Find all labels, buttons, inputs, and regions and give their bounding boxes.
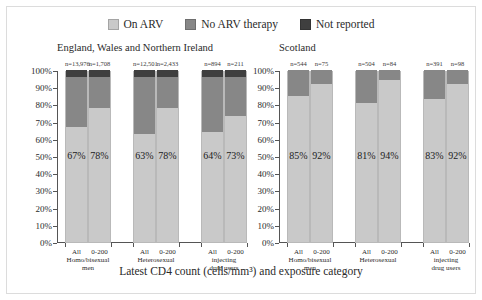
y-axis-tick <box>275 140 279 141</box>
x-axis-category-label: 0-200 <box>224 248 247 256</box>
legend-label: Not reported <box>316 19 374 30</box>
y-axis-tick <box>275 88 279 89</box>
x-axis-group-label: Heterosexual <box>133 256 179 264</box>
x-axis-category-label: 0-200 <box>310 248 333 256</box>
stacked-bar: 83% <box>423 71 446 243</box>
bar-sample-size-label: n=211 <box>224 60 247 67</box>
y-axis-tick <box>275 71 279 72</box>
x-axis-tick <box>179 243 180 247</box>
y-axis-tick-label: 70% <box>258 118 275 127</box>
x-axis-category-label: All <box>65 248 88 256</box>
y-axis-tick <box>275 191 279 192</box>
x-axis-tick <box>355 243 356 247</box>
bar-segment-no-arv <box>379 70 400 80</box>
panel-title-england: England, Wales and Northern Ireland <box>57 42 213 53</box>
bar-segment-on-arv <box>157 108 178 242</box>
y-axis-tick-label: 50% <box>36 153 53 162</box>
y-axis-line <box>279 71 280 243</box>
bar-segment-no-arv <box>134 77 155 134</box>
bar-value-label: 83% <box>424 151 445 161</box>
y-axis-tick-label: 50% <box>258 153 275 162</box>
y-axis-tick <box>53 191 57 192</box>
legend-item-not_reported: Not reported <box>300 19 374 30</box>
bar-segment-on-arv <box>202 132 223 242</box>
y-axis-tick <box>53 209 57 210</box>
bar-segment-not-reported <box>89 70 110 77</box>
y-axis-tick-label: 0% <box>262 239 274 248</box>
bar-segment-on-arv <box>225 116 246 242</box>
stacked-bar: 67% <box>65 71 88 243</box>
bar-segment-no-arv <box>89 77 110 108</box>
y-axis-tick-label: 10% <box>258 221 275 230</box>
stacked-bar: 63% <box>133 71 156 243</box>
stacked-bar: 92% <box>446 71 469 243</box>
bar-segment-on-arv <box>288 96 309 242</box>
legend-swatch-not_reported-icon <box>300 19 311 30</box>
bar-column: n=21173%0-200 <box>224 71 247 243</box>
stacked-bar: 94% <box>378 71 401 243</box>
y-axis-tick-label: 60% <box>36 135 53 144</box>
bar-sample-size-label: n=391 <box>423 60 446 67</box>
bar-column: n=89464%All <box>201 71 224 243</box>
y-axis-tick <box>53 88 57 89</box>
y-axis-tick <box>275 105 279 106</box>
x-axis-tick <box>201 243 202 247</box>
bar-value-label: 85% <box>288 151 309 161</box>
y-axis-tick-label: 80% <box>36 101 53 110</box>
y-axis-tick-label: 20% <box>36 204 53 213</box>
bar-column: n=7592%0-200 <box>310 71 333 243</box>
bar-sample-size-label: n=894 <box>201 60 224 67</box>
bar-column: n=13,97667%All <box>65 71 88 243</box>
chart-panel-scotland: 0%10%20%30%40%50%60%70%80%90%100%n=54485… <box>279 71 469 243</box>
bar-segment-on-arv <box>311 84 332 242</box>
x-axis-title: Latest CD4 count (cells/mm³) and exposur… <box>7 265 475 277</box>
bar-segment-no-arv <box>356 70 377 103</box>
x-axis-tick <box>401 243 402 247</box>
stacked-bar: 92% <box>310 71 333 243</box>
legend-label: No ARV therapy <box>201 19 278 30</box>
bar-segment-no-arv <box>157 77 178 108</box>
legend-swatch-on_arv-icon <box>108 19 119 30</box>
bar-segment-not-reported <box>225 70 246 77</box>
bar-column: n=1,70878%0-200 <box>88 71 111 243</box>
legend-item-no_arv: No ARV therapy <box>185 19 278 30</box>
bar-value-label: 78% <box>89 151 110 161</box>
y-axis-tick-label: 90% <box>36 84 53 93</box>
stacked-bar: 64% <box>201 71 224 243</box>
bar-value-label: 78% <box>157 151 178 161</box>
y-axis-tick <box>275 123 279 124</box>
bar-column: n=54485%All <box>287 71 310 243</box>
bar-segment-on-arv <box>66 127 87 242</box>
bar-sample-size-label: n=12,501 <box>133 60 156 67</box>
stacked-bar: 81% <box>355 71 378 243</box>
bar-segment-on-arv <box>424 99 445 242</box>
x-axis-category-label: 0-200 <box>378 248 401 256</box>
bar-group: n=54485%Alln=7592%0-200Homo/bisexualmen <box>287 71 333 243</box>
bar-group: n=13,97667%Alln=1,70878%0-200Homo/bisexu… <box>65 71 111 243</box>
x-axis-category-label: 0-200 <box>88 248 111 256</box>
stacked-bar: 73% <box>224 71 247 243</box>
bar-segment-no-arv <box>311 70 332 84</box>
bar-sample-size-label: n=2,433 <box>156 60 179 67</box>
bar-column: n=8494%0-200 <box>378 71 401 243</box>
y-axis-tick <box>53 105 57 106</box>
y-axis-tick <box>275 243 279 244</box>
legend-label: On ARV <box>124 19 164 30</box>
bar-value-label: 67% <box>66 151 87 161</box>
bar-group: n=50481%Alln=8494%0-200Heterosexual <box>355 71 401 243</box>
bar-value-label: 73% <box>225 151 246 161</box>
y-axis-tick <box>275 157 279 158</box>
y-axis-tick <box>53 226 57 227</box>
bar-column: n=39183%All <box>423 71 446 243</box>
bar-group: n=12,50163%Alln=2,43378%0-200Heterosexua… <box>133 71 179 243</box>
x-axis-tick <box>133 243 134 247</box>
bar-value-label: 94% <box>379 151 400 161</box>
bar-column: n=2,43378%0-200 <box>156 71 179 243</box>
x-axis-tick <box>423 243 424 247</box>
bar-group: n=39183%Alln=9892%0-200injectingdrug use… <box>423 71 469 243</box>
y-axis-tick <box>275 209 279 210</box>
bar-segment-no-arv <box>424 70 445 99</box>
chart-panel-england: 0%10%20%30%40%50%60%70%80%90%100%n=13,97… <box>57 71 247 243</box>
bar-segment-on-arv <box>447 84 468 242</box>
y-axis-tick-label: 90% <box>258 84 275 93</box>
